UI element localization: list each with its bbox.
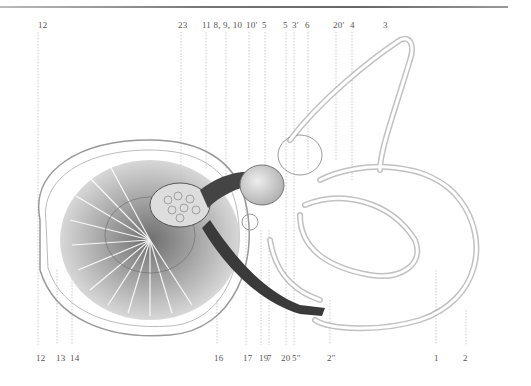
figure-label: 10′: [246, 20, 258, 30]
figure-label: 5: [283, 20, 288, 30]
figure-label: 20: [281, 353, 290, 363]
figure-label: 14: [70, 353, 79, 363]
figure-label: 11 8, 9, 10: [202, 20, 242, 30]
figure-label: 2″: [327, 353, 336, 363]
figure-label: 23: [178, 20, 187, 30]
figure-label: 7: [267, 353, 272, 363]
figure-label: 5″: [292, 353, 301, 363]
figure-label: 3′: [292, 20, 299, 30]
figure-label: 5: [262, 20, 267, 30]
figure-label: 4: [350, 20, 355, 30]
figure-label: 17: [243, 353, 252, 363]
figure-label: 16: [214, 353, 223, 363]
figure-label: 2: [463, 353, 468, 363]
figure-label: 3: [383, 20, 388, 30]
labyrinth-illustration: [0, 0, 531, 386]
figure-label: 20′: [333, 20, 345, 30]
figure-label: 12: [36, 353, 45, 363]
figure-label: 6: [305, 20, 310, 30]
figure-label: 12: [38, 20, 47, 30]
figure-label: 1: [434, 353, 439, 363]
figure-label: 13: [56, 353, 65, 363]
